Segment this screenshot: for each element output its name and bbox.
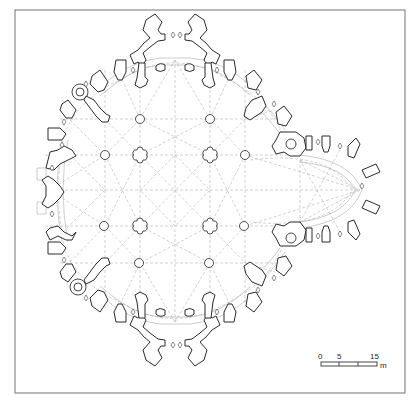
round-pier: [135, 259, 144, 268]
southwest-wall: [48, 242, 110, 312]
west-wall: [37, 165, 76, 240]
east-chancel: [272, 132, 380, 246]
round-pier: [205, 259, 214, 268]
round-pier: [100, 222, 109, 231]
cross-pier: [133, 147, 148, 163]
round-pier: [136, 115, 145, 124]
stair-turret-ne: [286, 139, 296, 149]
scale-label-0: 0: [318, 352, 323, 361]
cross-pier: [133, 218, 148, 234]
cross-pier: [203, 218, 218, 234]
scale-label-5: 5: [337, 352, 342, 361]
round-pier: [240, 222, 249, 231]
scale-unit: m: [380, 361, 387, 370]
scale-label-15: 15: [370, 352, 379, 361]
round-pier: [206, 115, 215, 124]
scale-bar: 0 5 15 m: [318, 352, 387, 370]
ambulatory-wall: [57, 58, 362, 324]
round-pier: [241, 151, 250, 160]
floor-plan: 0 5 15 m: [0, 0, 412, 404]
northeast-wall: [244, 70, 292, 126]
stair-turret-se: [286, 233, 296, 243]
south-apse: [114, 292, 236, 366]
southeast-wall: [244, 256, 292, 312]
cross-pier: [203, 147, 218, 163]
round-pier: [101, 151, 110, 160]
